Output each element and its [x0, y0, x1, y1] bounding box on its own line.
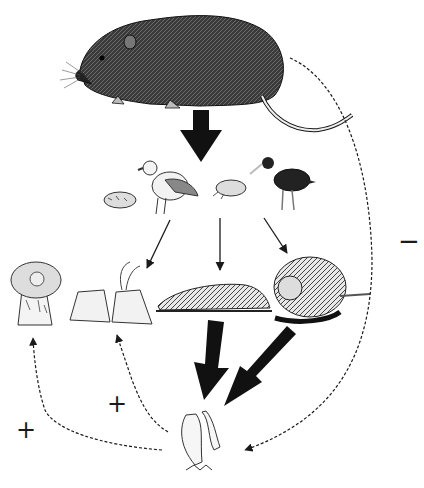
limpet-icon — [156, 284, 272, 311]
anemone-icon — [11, 262, 61, 325]
dashed-arrow-rat-to-algae — [245, 58, 372, 450]
thick-arrow-snail-to-algae — [224, 326, 296, 406]
snail-icon — [274, 257, 370, 321]
barnacle-icon — [70, 262, 152, 324]
dashed-arrow-algae-to-anemone — [33, 338, 162, 450]
thin-arrow-to-barnacles — [147, 220, 170, 268]
thick-arrow-limpet-to-algae — [194, 320, 229, 400]
plus-sign-barnacles: + — [107, 392, 127, 416]
algae-icon — [182, 411, 220, 470]
food-web-diagram — [0, 0, 424, 488]
thin-arrow-to-snail — [264, 218, 287, 253]
minus-sign: − — [398, 228, 420, 254]
crab-icon — [104, 192, 136, 208]
gull-icon — [138, 161, 198, 214]
crab-icon — [213, 180, 246, 199]
plus-sign-anemone: + — [16, 418, 36, 442]
oystercatcher-icon — [250, 157, 316, 210]
thick-arrow-rat-to-predators — [180, 110, 222, 162]
